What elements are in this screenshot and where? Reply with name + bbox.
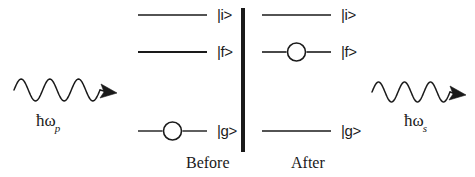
photon-wave-stokes: [372, 82, 450, 102]
ket-label-before-g: |g>: [217, 123, 237, 138]
hbar-symbol-pump: ħ: [36, 111, 45, 130]
ket-label-after-i: |i>: [341, 7, 356, 22]
photon-wave-pump: [14, 79, 100, 101]
electron-circle-before-g: [164, 122, 182, 140]
raman-scattering-figure: |i>|f>|g>Before|i>|f>|g>Afterħωpħωs: [0, 0, 475, 177]
ket-label-before-i: |i>: [217, 7, 232, 22]
omega-subscript-stokes: s: [423, 122, 427, 134]
panel-caption-after: After: [291, 155, 325, 171]
ket-label-before-f: |f>: [217, 44, 233, 59]
ket-label-after-f: |f>: [341, 44, 357, 59]
photon-energy-label-stokes: ħωs: [404, 112, 428, 132]
panel-caption-before: Before: [186, 155, 230, 171]
photon-energy-label-pump: ħωp: [36, 112, 61, 132]
electron-circle-after-f: [288, 43, 306, 61]
hbar-symbol-stokes: ħ: [404, 111, 413, 130]
omega-subscript-pump: p: [55, 122, 61, 134]
ket-label-after-g: |g>: [341, 123, 361, 138]
diagram-canvas: [0, 0, 475, 177]
